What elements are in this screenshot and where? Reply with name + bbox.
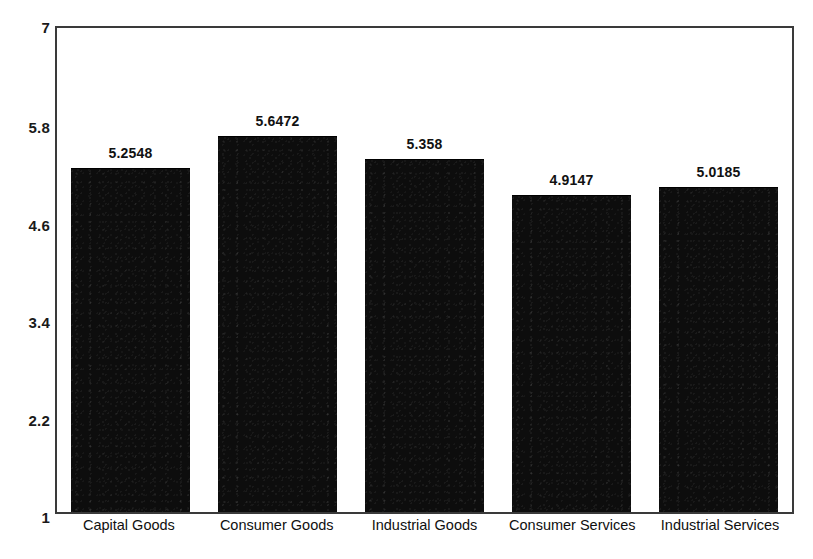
bar-value-label: 4.9147 [498, 173, 645, 187]
category-label-industrial-goods: Industrial Goods [351, 518, 499, 533]
y-tick-label: 4.6 [0, 218, 50, 233]
bar-value-label: 5.358 [351, 137, 498, 151]
bar-chart: 7 5.8 4.6 3.4 2.2 1 5.2548 5.6472 5.358 … [0, 0, 813, 559]
category-label-capital-goods: Capital Goods [55, 518, 203, 533]
x-axis: Capital Goods Consumer Goods Industrial … [55, 518, 794, 548]
bar-capital-goods [71, 168, 190, 512]
bar-consumer-services [512, 195, 631, 512]
bar-value-label: 5.0185 [645, 165, 792, 179]
category-label-consumer-goods: Consumer Goods [203, 518, 351, 533]
category-label-consumer-services: Consumer Services [498, 518, 646, 533]
plot-frame: 5.2548 5.6472 5.358 4.9147 5.0185 [55, 26, 794, 514]
y-axis: 7 5.8 4.6 3.4 2.2 1 [0, 0, 50, 559]
category-label-industrial-services: Industrial Services [646, 518, 794, 533]
y-tick-label: 7 [0, 20, 50, 35]
bar-value-label: 5.2548 [57, 146, 204, 160]
y-tick-label: 1 [0, 510, 50, 525]
y-tick-label: 3.4 [0, 315, 50, 330]
plot-area: 5.2548 5.6472 5.358 4.9147 5.0185 [57, 28, 792, 512]
bar-industrial-services [659, 187, 778, 512]
y-tick-label: 5.8 [0, 120, 50, 135]
y-tick-label: 2.2 [0, 413, 50, 428]
bar-industrial-goods [365, 159, 484, 512]
bar-consumer-goods [218, 136, 337, 512]
bar-value-label: 5.6472 [204, 114, 351, 128]
